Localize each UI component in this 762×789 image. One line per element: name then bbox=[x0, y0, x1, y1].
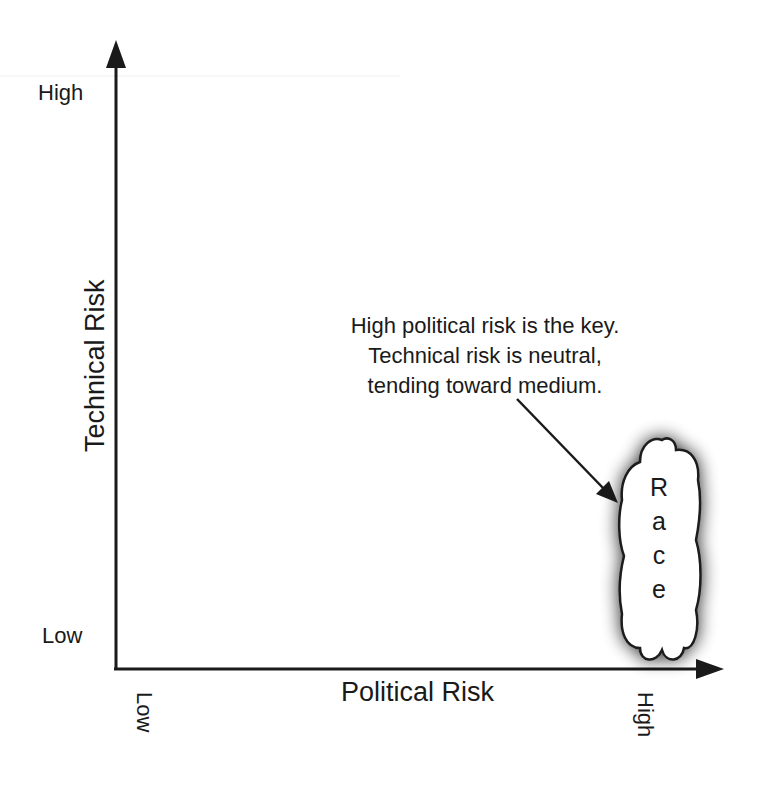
x-axis-high-label: High bbox=[632, 692, 658, 737]
race-letter: c bbox=[617, 538, 701, 572]
annotation-line: tending toward medium. bbox=[300, 371, 670, 401]
annotation-line: High political risk is the key. bbox=[300, 311, 670, 341]
y-axis-low-label: Low bbox=[42, 623, 82, 649]
annotation-arrow bbox=[517, 399, 618, 503]
x-axis-low-label: Low bbox=[131, 692, 157, 732]
annotation-line: Technical risk is neutral, bbox=[300, 341, 670, 371]
race-cloud-label: R a c e bbox=[617, 470, 701, 606]
race-letter: e bbox=[617, 572, 701, 606]
annotation-text: High political risk is the key. Technica… bbox=[300, 311, 670, 401]
race-letter: R bbox=[617, 470, 701, 504]
y-axis-title: Technical Risk bbox=[80, 279, 111, 452]
y-axis-arrowhead-icon bbox=[106, 40, 126, 68]
x-axis bbox=[114, 659, 724, 679]
x-axis-title: Political Risk bbox=[341, 677, 494, 708]
race-letter: a bbox=[617, 504, 701, 538]
y-axis-high-label: High bbox=[38, 80, 83, 106]
x-axis-arrowhead-icon bbox=[696, 659, 724, 679]
